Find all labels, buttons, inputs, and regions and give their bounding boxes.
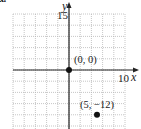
- y-tick-label-15: 15: [57, 10, 68, 21]
- point-label-5-neg12: (5, −12): [80, 100, 114, 111]
- data-point: [66, 67, 72, 73]
- part-label: a.: [0, 0, 6, 4]
- x-tick-label-10: 10: [118, 73, 129, 84]
- coordinate-plane: [0, 0, 141, 129]
- data-point: [94, 112, 100, 118]
- axes: [13, 2, 139, 129]
- point-label-origin: (0, 0): [74, 55, 97, 66]
- x-axis-label: x: [131, 71, 136, 83]
